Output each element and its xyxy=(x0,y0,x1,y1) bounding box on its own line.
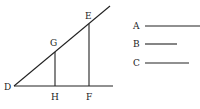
diagonal-line-DE xyxy=(14,6,110,86)
point-label-F: F xyxy=(86,92,92,102)
legend-label-B: B xyxy=(133,39,140,49)
point-label-H: H xyxy=(51,92,59,102)
geometry-diagram: D G H E F A B C xyxy=(0,0,200,109)
legend-label-A: A xyxy=(132,21,140,31)
point-label-G: G xyxy=(50,38,57,48)
point-label-E: E xyxy=(85,11,92,21)
point-label-D: D xyxy=(4,82,11,92)
legend-label-C: C xyxy=(133,58,140,68)
